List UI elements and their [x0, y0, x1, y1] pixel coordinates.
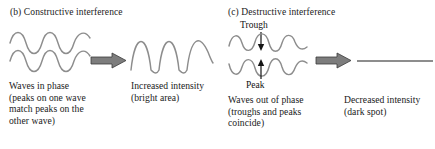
caption-input-constructive: Waves in phase (peaks on one wave match …	[9, 80, 86, 126]
output-flat-line-cancellation	[357, 60, 433, 62]
caption-line: Increased intensity	[131, 80, 204, 92]
caption-line: (troughs and peaks	[228, 106, 304, 118]
caption-line: (bright area)	[131, 92, 204, 104]
panel-constructive-interference: (b) Constructive interference Waves in p…	[0, 0, 218, 149]
wave-path-lower-destructive	[229, 59, 307, 76]
panel-title-destructive: (c) Destructive interference	[228, 6, 335, 18]
wave-lower-out-of-phase	[228, 55, 308, 81]
caption-line: other wave)	[9, 115, 86, 127]
wave-upper-out-of-phase	[228, 29, 308, 55]
caption-output-destructive: Decreased intensity (dark spot)	[344, 94, 420, 117]
wave-lower-in-phase	[10, 51, 90, 72]
caption-line: Decreased intensity	[344, 94, 420, 106]
caption-line: Waves in phase	[9, 80, 86, 92]
output-wave-increased-amplitude	[130, 26, 214, 74]
caption-input-destructive: Waves out of phase (troughs and peaks co…	[228, 94, 304, 129]
wave-resultant-constructive	[131, 41, 213, 73]
caption-line: match peaks on the	[9, 103, 86, 115]
panel-title-constructive: (b) Constructive interference	[10, 6, 123, 18]
caption-line: Waves out of phase	[228, 94, 304, 106]
caption-line: (dark spot)	[344, 106, 420, 118]
caption-line: (peaks on one wave	[9, 92, 86, 104]
arrow-right-constructive	[90, 52, 127, 69]
input-waves-in-phase	[8, 26, 94, 72]
caption-output-constructive: Increased intensity (bright area)	[131, 80, 204, 103]
wave-path-upper-destructive	[229, 34, 307, 51]
panel-destructive-interference: (c) Destructive interference Trough Peak…	[220, 0, 435, 149]
annotation-label-peak: Peak	[246, 80, 264, 91]
pointer-peak-icon	[256, 58, 266, 80]
caption-line: coincide)	[228, 117, 304, 129]
arrow-right-destructive	[315, 52, 352, 69]
